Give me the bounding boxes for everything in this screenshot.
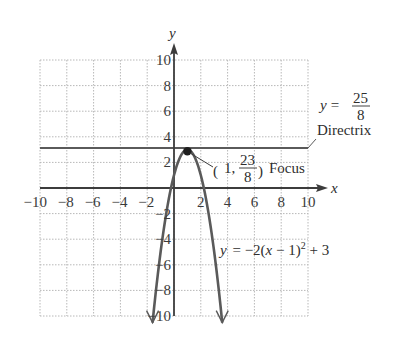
y-tick-label: −6 — [155, 257, 171, 273]
x-axis — [40, 184, 328, 192]
x-tick-label: 6 — [251, 194, 259, 210]
y-tick-label: 10 — [156, 52, 171, 68]
y-tick-label: −2 — [155, 206, 171, 222]
x-axis-label: x — [330, 180, 338, 196]
parabola-chart: −10−8−6−4−2246810 108642−2−4−6−8−10 x y … — [0, 0, 404, 337]
y-tick-label: 4 — [164, 129, 172, 145]
focus-numerator: 23 — [240, 152, 255, 168]
x-tick-label: −10 — [24, 194, 47, 210]
y-tick-label: −4 — [155, 231, 171, 247]
directrix-numerator: 25 — [353, 90, 368, 106]
curve-equation: y = −2(x − 1)2 + 3 — [218, 240, 329, 259]
focus-annotation: ( 1, 23 8 ) Focus — [213, 152, 305, 185]
svg-text:(: ( — [213, 163, 218, 180]
y-tick-label: 2 — [164, 154, 172, 170]
y-tick-label: −8 — [155, 282, 171, 298]
y-axis-label: y — [167, 25, 176, 41]
directrix-annotation: y= 25 8 Directrix — [317, 90, 372, 138]
x-tick-label: −4 — [111, 194, 127, 210]
x-tick-label: 10 — [301, 194, 316, 210]
focus-x: 1, — [224, 160, 235, 176]
y-tick-label: 8 — [164, 78, 172, 94]
x-tick-label: 8 — [277, 194, 285, 210]
svg-text:y=: y= — [318, 97, 339, 113]
focus-denominator: 8 — [244, 169, 252, 185]
x-tick-label: −8 — [58, 194, 74, 210]
directrix-leader — [308, 139, 316, 148]
x-tick-label: 4 — [224, 194, 232, 210]
y-tick-label: 6 — [164, 103, 172, 119]
svg-text:): ) — [258, 163, 263, 180]
focus-point — [183, 147, 191, 155]
directrix-denominator: 8 — [357, 107, 365, 123]
directrix-label: Directrix — [317, 122, 372, 138]
x-tick-label: −2 — [138, 194, 154, 210]
x-tick-label: −6 — [85, 194, 101, 210]
y-tick-label: −10 — [148, 308, 171, 324]
focus-leader — [190, 153, 213, 167]
focus-label: Focus — [269, 160, 305, 176]
x-tick-label: 2 — [197, 194, 205, 210]
